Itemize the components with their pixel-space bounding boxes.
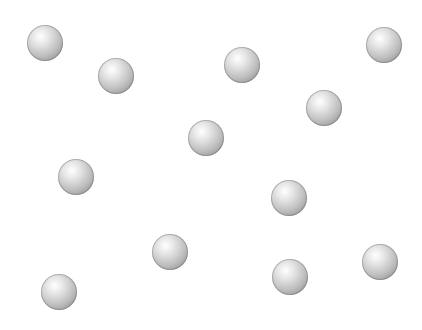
sphere-particle (224, 47, 260, 83)
sphere-particle (306, 90, 342, 126)
sphere-particle (362, 244, 398, 280)
sphere-particle (41, 274, 77, 310)
sphere-particle (271, 180, 307, 216)
sphere-particle (366, 27, 402, 63)
sphere-particle (98, 58, 134, 94)
sphere-particle (27, 25, 63, 61)
sphere-particle (272, 259, 308, 295)
sphere-particle (58, 159, 94, 195)
sphere-particle (188, 120, 224, 156)
sphere-particle (152, 234, 188, 270)
